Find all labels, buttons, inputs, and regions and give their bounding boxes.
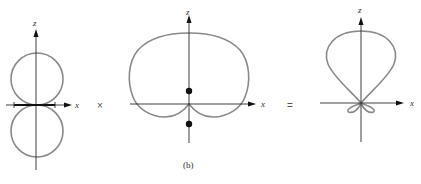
minor-lobe-left <box>348 103 361 112</box>
z-axis-arrow-icon <box>359 17 364 25</box>
panel-array-factor: z x (b) <box>129 7 265 170</box>
figure-caption: (b) <box>183 160 194 170</box>
pattern-multiplication-diagram: z x × z x (b) = z x <box>0 0 421 184</box>
minor-lobe-right <box>361 103 374 112</box>
equals-operator: = <box>287 100 293 111</box>
upper-lobe <box>11 53 63 105</box>
z-axis-arrow-icon <box>34 29 39 37</box>
x-axis-arrow-icon <box>396 101 404 106</box>
panel-total-pattern: z x <box>320 5 414 142</box>
times-operator: × <box>97 100 103 111</box>
x-axis-label: x <box>74 100 79 110</box>
x-axis-arrow-icon <box>248 102 256 107</box>
x-axis-label: x <box>409 98 414 108</box>
z-axis-label: z <box>357 5 362 15</box>
panel-element-pattern: z x <box>6 18 79 170</box>
x-axis-arrow-icon <box>64 103 72 108</box>
source-dot-upper <box>186 88 192 94</box>
z-axis-label: z <box>32 18 37 28</box>
lower-lobe <box>11 105 63 157</box>
source-dot-lower <box>186 121 192 127</box>
z-axis-label: z <box>185 7 190 17</box>
x-axis-label: x <box>260 99 265 109</box>
